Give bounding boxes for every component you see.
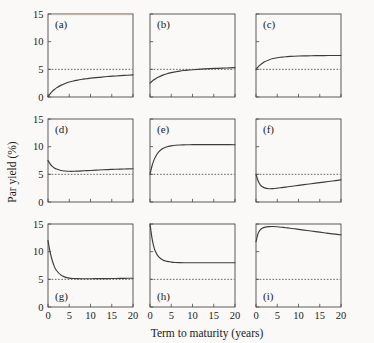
- x-tick-label: 15: [315, 310, 326, 321]
- x-tick-label: 0: [45, 310, 50, 321]
- yield-curve: [150, 224, 235, 263]
- panel-label: (g): [55, 290, 68, 303]
- y-tick-label: 15: [33, 114, 44, 125]
- y-tick-label: 15: [33, 219, 44, 230]
- x-tick-label: 15: [107, 310, 118, 321]
- x-tick-label: 10: [187, 310, 198, 321]
- x-tick-label: 20: [128, 310, 139, 321]
- x-tick-label: 20: [230, 310, 241, 321]
- panel-c: (c): [256, 14, 341, 97]
- x-tick-label: 20: [336, 310, 347, 321]
- yield-curve: [150, 68, 235, 84]
- x-tick-label: 5: [67, 310, 72, 321]
- panel-h: 05101520(h): [147, 224, 240, 321]
- panel-label: (h): [157, 290, 170, 303]
- panel-label: (e): [157, 123, 170, 136]
- yield-curve: [256, 226, 341, 241]
- panel-i: 05101520(i): [253, 224, 346, 321]
- y-tick-label: 0: [38, 92, 43, 103]
- y-tick-label: 0: [38, 302, 43, 313]
- x-tick-label: 10: [293, 310, 304, 321]
- x-tick-label: 5: [275, 310, 280, 321]
- x-tick-label: 15: [209, 310, 220, 321]
- y-axis-title: Par yield (%): [6, 141, 19, 202]
- y-tick-label: 0: [38, 197, 43, 208]
- panel-label: (c): [263, 18, 276, 31]
- par-yield-curves-figure: 051015(a)(b)(c)051015(d)(e)(f)0510150510…: [0, 0, 374, 343]
- yield-curve: [48, 161, 133, 172]
- y-tick-label: 10: [33, 246, 44, 257]
- panels-group: 051015(a)(b)(c)051015(d)(e)(f)0510150510…: [33, 9, 346, 321]
- y-tick-label: 10: [33, 141, 44, 152]
- panel-label: (b): [157, 18, 170, 31]
- y-tick-label: 5: [38, 169, 43, 180]
- yield-curve: [150, 145, 235, 175]
- yield-curve: [48, 241, 133, 279]
- panel-label: (i): [263, 290, 274, 303]
- y-tick-label: 5: [38, 64, 43, 75]
- yield-curve: [48, 75, 133, 97]
- x-axis-title: Term to maturity (years): [151, 327, 264, 340]
- x-tick-label: 10: [85, 310, 96, 321]
- y-tick-label: 15: [33, 9, 44, 20]
- x-tick-label: 0: [253, 310, 258, 321]
- panel-e: (e): [150, 119, 235, 202]
- x-tick-label: 5: [169, 310, 174, 321]
- panel-label: (f): [263, 123, 274, 136]
- figure-container: 051015(a)(b)(c)051015(d)(e)(f)0510150510…: [0, 0, 374, 343]
- y-tick-label: 10: [33, 36, 44, 47]
- panel-g: 05101505101520(g): [33, 219, 138, 321]
- yield-curve: [256, 55, 341, 69]
- y-tick-label: 5: [38, 274, 43, 285]
- panel-d: 051015(d): [33, 114, 133, 208]
- panel-a: 051015(a): [33, 9, 133, 103]
- panel-f: (f): [256, 119, 341, 202]
- x-tick-label: 0: [147, 310, 152, 321]
- panel-label: (d): [55, 123, 68, 136]
- yield-curve: [256, 174, 341, 188]
- panel-b: (b): [150, 14, 235, 97]
- panel-label: (a): [55, 18, 68, 31]
